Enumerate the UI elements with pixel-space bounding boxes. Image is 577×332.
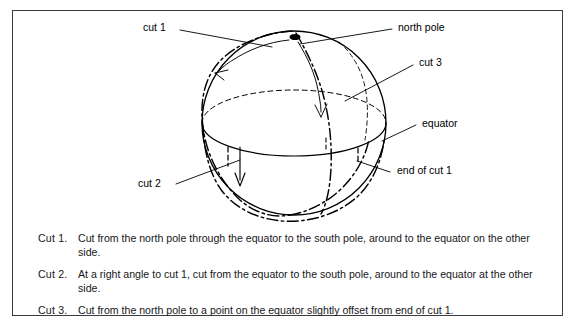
figure-page: cut 1 north pole cut 3 equator end of cu… [0, 0, 577, 332]
caption-key-cut-2: Cut 2. [38, 268, 78, 282]
label-equator: equator [422, 118, 458, 129]
label-cut-2: cut 2 [138, 178, 161, 189]
caption-text-cut-2: At a right angle to cut 1, cut from the … [78, 268, 538, 295]
caption-row-cut-1: Cut 1. Cut from the north pole through t… [38, 232, 538, 259]
caption-key-cut-3: Cut 3. [38, 304, 78, 318]
caption-row-cut-2: Cut 2. At a right angle to cut 1, cut fr… [38, 268, 538, 295]
caption-key-cut-1: Cut 1. [38, 232, 78, 246]
label-north-pole: north pole [398, 22, 445, 33]
caption-block: Cut 1. Cut from the north pole through t… [38, 232, 538, 318]
label-end-of-cut-1: end of cut 1 [397, 165, 452, 176]
caption-text-cut-1: Cut from the north pole through the equa… [78, 232, 538, 259]
caption-text-cut-3: Cut from the north pole to a point on th… [78, 304, 538, 318]
label-cut-1: cut 1 [143, 22, 166, 33]
label-cut-3: cut 3 [419, 57, 442, 68]
caption-row-cut-3: Cut 3. Cut from the north pole to a poin… [38, 304, 538, 318]
